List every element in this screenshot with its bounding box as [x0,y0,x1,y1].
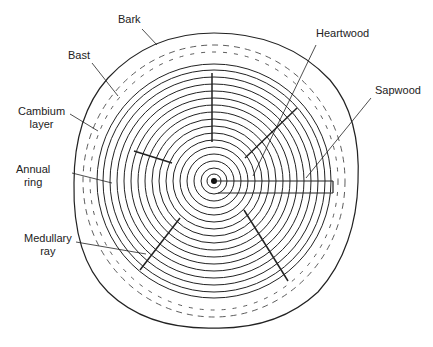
label-annual-ring: Annual ring [16,163,50,189]
sapwood-cut [214,181,333,193]
label-medullary-ray: Medullary ray [24,232,72,258]
label-cambium-layer: Cambium layer [18,105,65,131]
label-bark: Bark [118,13,141,26]
label-medullary-line1: Medullary [24,232,72,245]
tree-cross-section-diagram [0,0,433,347]
label-annual-line1: Annual [16,163,50,176]
leader-lines [70,29,371,254]
label-sapwood: Sapwood [375,84,421,97]
label-cambium-line1: Cambium [18,105,65,118]
label-bast: Bast [68,49,90,62]
label-cambium-line2: layer [18,118,65,131]
label-medullary-line2: ray [24,245,72,258]
label-heartwood: Heartwood [316,27,369,40]
label-annual-line2: ring [16,176,50,189]
